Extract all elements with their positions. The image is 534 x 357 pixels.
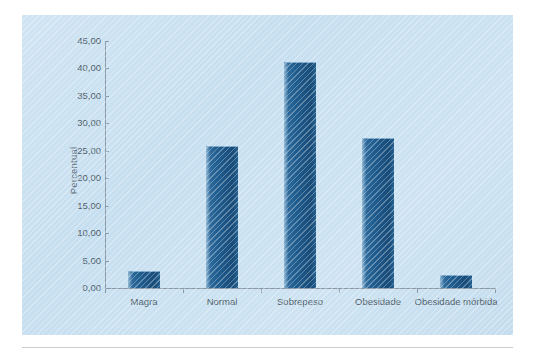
y-tick-label: 45,00 xyxy=(53,35,101,47)
x-tick-mark xyxy=(417,288,418,293)
y-tick-label: 5,00 xyxy=(53,255,101,267)
y-tick-label: 15,00 xyxy=(53,200,101,212)
y-axis-line xyxy=(105,41,106,289)
x-tick-mark xyxy=(339,288,340,293)
x-axis-category-label: Obesidade mórbida xyxy=(410,296,502,308)
y-tick-label: 10,00 xyxy=(53,227,101,239)
y-tick-mark xyxy=(105,233,109,234)
y-tick-label: 25,00 xyxy=(53,145,101,157)
y-tick-mark xyxy=(105,96,109,97)
bar xyxy=(284,62,316,288)
bar xyxy=(206,146,238,288)
y-tick-mark xyxy=(105,206,109,207)
y-tick-label: 30,00 xyxy=(53,117,101,129)
y-tick-mark xyxy=(105,261,109,262)
y-tick-mark xyxy=(105,178,109,179)
bar xyxy=(362,138,394,288)
y-tick-mark xyxy=(105,151,109,152)
page-rule xyxy=(22,347,513,348)
y-tick-label: 40,00 xyxy=(53,62,101,74)
chart-panel: Percentual 0,005,0010,0015,0020,0025,003… xyxy=(22,15,513,335)
y-tick-label: 35,00 xyxy=(53,90,101,102)
plot-area: 0,005,0010,0015,0020,0025,0030,0035,0040… xyxy=(105,41,495,288)
x-tick-mark xyxy=(183,288,184,293)
y-tick-label: 0,00 xyxy=(53,282,101,294)
bar xyxy=(128,271,160,288)
chart-figure: Percentual 0,005,0010,0015,0020,0025,003… xyxy=(0,0,534,357)
y-tick-mark xyxy=(105,68,109,69)
x-tick-mark xyxy=(261,288,262,293)
x-tick-mark xyxy=(105,288,106,293)
y-tick-mark xyxy=(105,123,109,124)
y-tick-label: 20,00 xyxy=(53,172,101,184)
bar xyxy=(440,275,472,288)
y-tick-mark xyxy=(105,41,109,42)
x-axis-line xyxy=(105,288,496,289)
x-tick-mark xyxy=(495,288,496,293)
